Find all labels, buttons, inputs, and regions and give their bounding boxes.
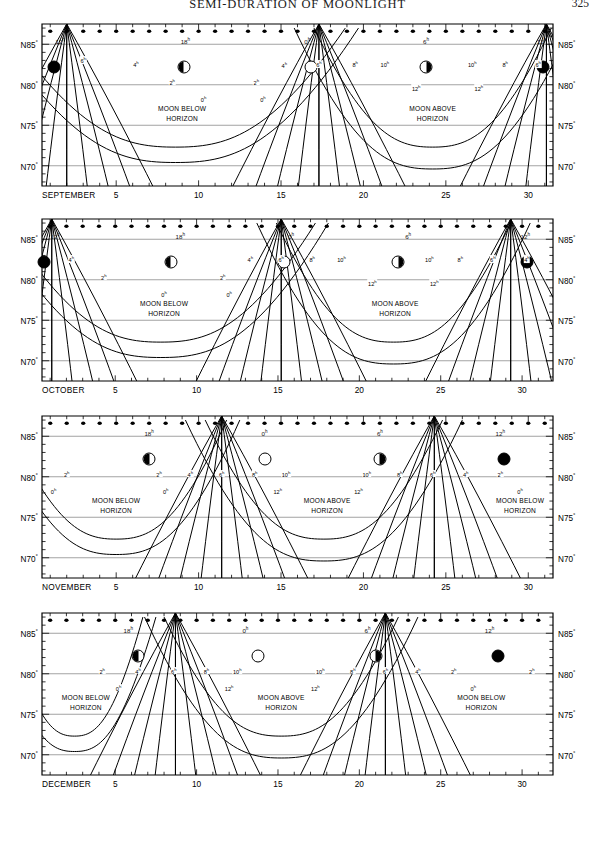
hour-label-6h: 6h bbox=[377, 429, 383, 437]
latitude-label-left-80: N80° bbox=[21, 275, 38, 286]
curve-value-label-0h-2: 0h bbox=[162, 487, 168, 495]
day-tick-label-25: 25 bbox=[441, 582, 450, 592]
curve-value-label-6h-3: 6h bbox=[171, 667, 177, 675]
region-label-below-1: MOON BELOWHORIZON bbox=[140, 299, 188, 319]
day-tick-label-25: 25 bbox=[436, 385, 445, 395]
latitude-label-right-70: N70° bbox=[558, 161, 575, 172]
curve-value-label-12h-6: 12h bbox=[224, 684, 234, 692]
latitude-label-right-85: N85° bbox=[558, 628, 575, 639]
page-title: SEMI-DURATION OF MOONLIGHT bbox=[0, 0, 595, 12]
curve-value-label-6h-10: 6h bbox=[382, 667, 388, 675]
curve-value-label-0h-0: 0h bbox=[115, 684, 121, 692]
latitude-label-right-75: N75° bbox=[558, 120, 575, 131]
curve-value-label-10h-9: 10h bbox=[380, 60, 390, 68]
curve-value-label-4h-14: 4h bbox=[524, 255, 530, 263]
hour-label-6h: 6h bbox=[423, 37, 429, 45]
curve-value-label-2h-14: 2h bbox=[529, 667, 535, 675]
curve-value-label-2h-14: 2h bbox=[497, 470, 503, 478]
moon-dark-limb bbox=[165, 256, 171, 267]
day-tick-label-30: 30 bbox=[517, 779, 526, 789]
curve-value-label-8h-4: 8h bbox=[203, 667, 209, 675]
hour-label-18h: 18h bbox=[176, 232, 185, 240]
curve-value-label-10h-7: 10h bbox=[281, 470, 291, 478]
day-tick-label-10: 10 bbox=[194, 582, 203, 592]
curve-value-label-2h-1: 2h bbox=[101, 273, 107, 281]
day-tick-label-10: 10 bbox=[192, 779, 201, 789]
curve-value-label-8h-11: 8h bbox=[396, 470, 402, 478]
region-label-above-1: MOON ABOVEHORIZON bbox=[304, 496, 351, 516]
hour-label-18h: 18h bbox=[144, 429, 153, 437]
day-tick-label-5: 5 bbox=[114, 582, 119, 592]
latitude-label-right-75: N75° bbox=[558, 315, 575, 326]
day-tick-label-5: 5 bbox=[113, 779, 118, 789]
curve-value-label-4h-4: 4h bbox=[187, 470, 193, 478]
day-tick-label-20: 20 bbox=[359, 582, 368, 592]
latitude-label-right-70: N70° bbox=[558, 356, 575, 367]
moon-phase-first-quarter bbox=[132, 649, 145, 662]
hour-label-6h: 6h bbox=[364, 626, 370, 634]
region-label-above-1: MOON ABOVEHORIZON bbox=[409, 104, 456, 124]
chart-panel-december: N85°N85°N80°N80°N75°N75°N70°N70°DECEMBER… bbox=[42, 613, 553, 775]
moon-dark-limb bbox=[178, 61, 184, 72]
hour-label-18h: 18h bbox=[124, 626, 133, 634]
curve-value-label-2h-4: 2h bbox=[219, 273, 225, 281]
curve-value-label-0h-3: 0h bbox=[226, 290, 232, 298]
day-tick-label-5: 5 bbox=[114, 190, 119, 200]
curve-value-label-2h-1: 2h bbox=[63, 470, 69, 478]
month-label-october: OCTOBER bbox=[42, 385, 85, 395]
latitude-label-left-75: N75° bbox=[21, 315, 38, 326]
latitude-label-right-70: N70° bbox=[558, 553, 575, 564]
region-label-above-1: MOON ABOVEHORIZON bbox=[372, 299, 419, 319]
latitude-label-left-75: N75° bbox=[21, 120, 38, 131]
curve-value-label-12h-9: 12h bbox=[354, 487, 364, 495]
day-tick-label-30: 30 bbox=[524, 582, 533, 592]
curve-value-label-8h-9: 8h bbox=[350, 667, 356, 675]
curve-value-label-10h-8: 10h bbox=[315, 667, 325, 675]
curve-value-label-0h-13: 0h bbox=[470, 684, 476, 692]
hour-label-12h: 12h bbox=[55, 37, 64, 45]
moon-phase-last-quarter bbox=[369, 649, 382, 662]
curve-value-label-0h-2: 0h bbox=[161, 290, 167, 298]
moon-phase-last-quarter bbox=[420, 60, 433, 73]
curve-value-label-4h-0: 4h bbox=[68, 255, 74, 263]
curve-value-label-4h-11: 4h bbox=[415, 667, 421, 675]
day-tick-label-15: 15 bbox=[276, 582, 285, 592]
moon-phase-first-quarter bbox=[143, 452, 156, 465]
curve-value-label-10h-8: 10h bbox=[337, 255, 347, 263]
curve-value-label-12h-11: 12h bbox=[474, 84, 484, 92]
hour-label-0h: 0h bbox=[288, 232, 294, 240]
day-tick-label-5: 5 bbox=[113, 385, 118, 395]
curve-value-label-8h-6: 8h bbox=[251, 470, 257, 478]
page-number: 325 bbox=[572, 0, 589, 9]
day-tick-label-20: 20 bbox=[359, 190, 368, 200]
hour-label-0h: 0h bbox=[262, 429, 268, 437]
curve-value-label-6h-6: 6h bbox=[278, 255, 284, 263]
latitude-label-left-80: N80° bbox=[21, 669, 38, 680]
curve-value-label-0h-4: 0h bbox=[260, 95, 266, 103]
curve-value-label-0h-0: 0h bbox=[50, 487, 56, 495]
latitude-label-left-80: N80° bbox=[21, 80, 38, 91]
latitude-label-right-85: N85° bbox=[558, 39, 575, 50]
curve-value-label-8h-7: 8h bbox=[309, 255, 315, 263]
day-tick-label-20: 20 bbox=[355, 385, 364, 395]
moon-phase-new bbox=[491, 649, 504, 662]
curve-value-label-2h-2: 2h bbox=[169, 78, 175, 86]
region-label-above-1: MOON ABOVEHORIZON bbox=[258, 693, 305, 713]
curve-value-label-6h-12: 6h bbox=[429, 470, 435, 478]
day-tick-label-30: 30 bbox=[524, 190, 533, 200]
curve-value-label-4h-13: 4h bbox=[462, 470, 468, 478]
curve-value-label-0h-3: 0h bbox=[200, 95, 206, 103]
curve-value-label-0h-15: 0h bbox=[517, 487, 523, 495]
day-tick-label-25: 25 bbox=[441, 190, 450, 200]
plot-area bbox=[42, 219, 553, 381]
latitude-label-left-75: N75° bbox=[21, 512, 38, 523]
latitude-label-left-85: N85° bbox=[21, 431, 38, 442]
day-tick-label-25: 25 bbox=[436, 779, 445, 789]
moon-phase-full bbox=[258, 452, 271, 465]
curve-value-label-6h-14: 6h bbox=[535, 60, 541, 68]
hour-label-18h: 18h bbox=[181, 37, 190, 45]
moon-dark-limb bbox=[380, 453, 386, 464]
curve-value-label-8h-8: 8h bbox=[352, 60, 358, 68]
latitude-label-right-70: N70° bbox=[558, 750, 575, 761]
region-label-below-1: MOON BELOWHORIZON bbox=[158, 104, 206, 124]
